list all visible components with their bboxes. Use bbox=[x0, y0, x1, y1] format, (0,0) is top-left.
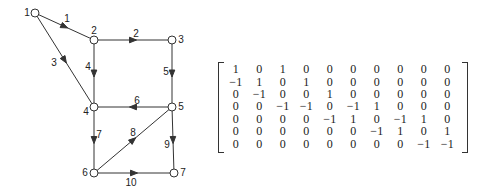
matrix-cell: 1 bbox=[342, 113, 366, 125]
node-label: 1 bbox=[24, 7, 30, 18]
matrix-row: 00−1−10−11000 bbox=[224, 100, 459, 112]
matrix-cell: 1 bbox=[365, 100, 389, 112]
node-1 bbox=[31, 9, 39, 17]
matrix-cell: 0 bbox=[318, 63, 342, 75]
directed-graph: 123456789101234567 bbox=[0, 0, 200, 188]
edge-label: 9 bbox=[164, 139, 170, 150]
arrow-icon bbox=[91, 70, 97, 77]
matrix-cell: 0 bbox=[318, 100, 342, 112]
edge-label: 1 bbox=[64, 13, 70, 24]
node-label: 2 bbox=[91, 25, 97, 36]
matrix-cell: 0 bbox=[436, 75, 460, 87]
matrix-cell: 0 bbox=[271, 75, 295, 87]
node-5 bbox=[168, 103, 176, 111]
matrix-cell: 0 bbox=[436, 113, 460, 125]
matrix-row: 0−100100000 bbox=[224, 88, 459, 100]
matrix-cell: −1 bbox=[318, 113, 342, 125]
matrix-cell: 0 bbox=[342, 137, 366, 149]
matrix-row: 1010000000 bbox=[224, 63, 459, 75]
matrix-row: 00000000−1−1 bbox=[224, 137, 459, 149]
matrix-cell: 0 bbox=[412, 100, 436, 112]
matrix-cell: 0 bbox=[271, 125, 295, 137]
node-label: 6 bbox=[82, 167, 88, 178]
matrix-cell: 0 bbox=[342, 125, 366, 137]
matrix-cell: 0 bbox=[248, 137, 272, 149]
arrow-icon bbox=[131, 170, 138, 176]
edge-label: 8 bbox=[130, 127, 136, 138]
matrix-cell: 0 bbox=[248, 125, 272, 137]
matrix-cell: 0 bbox=[342, 75, 366, 87]
node-label: 4 bbox=[83, 106, 89, 117]
edge-label: 2 bbox=[133, 28, 139, 39]
edge-label: 4 bbox=[85, 61, 91, 72]
matrix-cell: −1 bbox=[271, 100, 295, 112]
matrix-cell: 0 bbox=[436, 100, 460, 112]
matrix-cell: 0 bbox=[295, 113, 319, 125]
matrix-cell: −1 bbox=[295, 100, 319, 112]
matrix-cell: 0 bbox=[389, 75, 413, 87]
matrix-cell: 0 bbox=[248, 100, 272, 112]
matrix-cell: 0 bbox=[365, 113, 389, 125]
matrix-cell: −1 bbox=[248, 88, 272, 100]
node-6 bbox=[90, 169, 98, 177]
right-bracket bbox=[462, 62, 468, 153]
matrix-cell: 1 bbox=[436, 125, 460, 137]
incidence-matrix: 1010000000−11010000000−10010000000−1−10−… bbox=[218, 62, 468, 152]
matrix-cell: 0 bbox=[318, 75, 342, 87]
arrow-icon bbox=[169, 70, 175, 77]
matrix-cell: 0 bbox=[224, 100, 248, 112]
edge-label: 3 bbox=[51, 57, 57, 68]
matrix-cell: 0 bbox=[295, 88, 319, 100]
matrix-cell: 0 bbox=[271, 113, 295, 125]
arrow-icon bbox=[60, 56, 66, 63]
matrix-cell: 0 bbox=[389, 137, 413, 149]
matrix-cell: 0 bbox=[271, 137, 295, 149]
matrix-cell: 0 bbox=[295, 63, 319, 75]
matrix-cell: 0 bbox=[271, 88, 295, 100]
matrix-cell: 0 bbox=[412, 75, 436, 87]
matrix-cell: 0 bbox=[389, 100, 413, 112]
matrix-cell: 0 bbox=[365, 137, 389, 149]
edge-label: 6 bbox=[134, 95, 140, 106]
node-3 bbox=[168, 36, 176, 44]
matrix-cell: −1 bbox=[224, 75, 248, 87]
node-4 bbox=[90, 103, 98, 111]
matrix-cell: −1 bbox=[436, 137, 460, 149]
matrix-row: 0000−110−110 bbox=[224, 113, 459, 125]
node-label: 7 bbox=[180, 167, 186, 178]
matrix-cell: 0 bbox=[412, 88, 436, 100]
matrix-cell: 1 bbox=[412, 113, 436, 125]
matrix-cell: 0 bbox=[318, 137, 342, 149]
matrix-cell: 0 bbox=[248, 63, 272, 75]
matrix-cell: 0 bbox=[342, 88, 366, 100]
matrix-cell: 0 bbox=[436, 63, 460, 75]
edge-label: 10 bbox=[125, 177, 137, 188]
matrix-cell: 0 bbox=[412, 125, 436, 137]
matrix-cell: 0 bbox=[248, 113, 272, 125]
matrix-table: 1010000000−11010000000−10010000000−1−10−… bbox=[224, 63, 459, 150]
matrix-cell: 0 bbox=[342, 63, 366, 75]
matrix-cell: 1 bbox=[295, 75, 319, 87]
edge-label: 5 bbox=[163, 66, 169, 77]
matrix-cell: −1 bbox=[412, 137, 436, 149]
matrix-cell: 0 bbox=[365, 75, 389, 87]
matrix-row: −1101000000 bbox=[224, 75, 459, 87]
node-label: 5 bbox=[178, 101, 184, 112]
matrix-cell: −1 bbox=[365, 125, 389, 137]
matrix-cell: 0 bbox=[365, 63, 389, 75]
matrix-cell: 0 bbox=[295, 125, 319, 137]
matrix-cell: 0 bbox=[318, 125, 342, 137]
matrix-cell: 0 bbox=[365, 88, 389, 100]
matrix-cell: 0 bbox=[224, 88, 248, 100]
matrix-cell: 1 bbox=[224, 63, 248, 75]
matrix-cell: 0 bbox=[436, 88, 460, 100]
matrix-cell: 1 bbox=[248, 75, 272, 87]
matrix-cell: 0 bbox=[224, 125, 248, 137]
matrix-row: 000000−1101 bbox=[224, 125, 459, 137]
matrix-cell: 1 bbox=[318, 88, 342, 100]
matrix-cell: 0 bbox=[224, 137, 248, 149]
matrix-cell: 1 bbox=[389, 125, 413, 137]
edge-label: 7 bbox=[96, 129, 102, 140]
arrow-icon bbox=[170, 136, 176, 143]
node-7 bbox=[170, 169, 178, 177]
